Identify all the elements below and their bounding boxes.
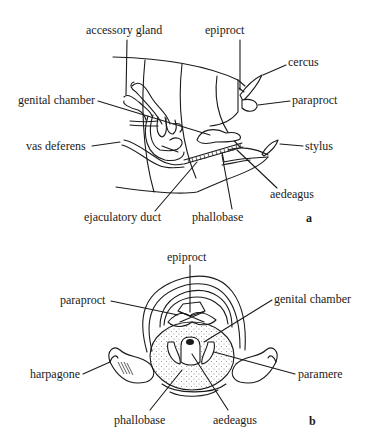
figure-a-leaders <box>92 40 303 211</box>
label-epiproct-a: epiproct <box>205 24 244 36</box>
label-harpagone: harpagone <box>30 368 80 380</box>
label-epiproct-b: epiproct <box>167 251 206 263</box>
panel-label-a: a <box>306 212 312 224</box>
label-aedeagus-a: aedeagus <box>270 188 314 200</box>
label-paraproct-a: paraproct <box>292 94 337 106</box>
label-genital-chamber-b: genital chamber <box>274 293 351 305</box>
label-stylus: stylus <box>305 140 333 152</box>
label-phallobase-b: phallobase <box>114 414 165 426</box>
panel-label-b: b <box>309 415 316 427</box>
label-phallobase-a: phallobase <box>192 211 243 223</box>
label-ejaculatory-duct: ejaculatory duct <box>84 211 161 223</box>
label-paramere: paramere <box>298 368 343 380</box>
label-paraproct-b: paraproct <box>60 294 105 306</box>
label-vas-deferens: vas deferens <box>26 140 86 152</box>
label-genital-chamber-a: genital chamber <box>18 94 95 106</box>
label-aedeagus-b: aedeagus <box>213 414 257 426</box>
label-cercus: cercus <box>288 56 319 68</box>
figure-b-drawing <box>109 276 277 396</box>
figure-a-drawing <box>113 57 278 193</box>
label-accessory-gland: accessory gland <box>86 24 162 36</box>
